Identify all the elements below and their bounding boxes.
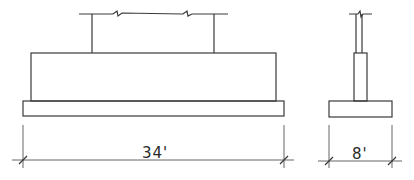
- section-width-label: 8': [352, 145, 368, 163]
- top-break-line: [79, 11, 228, 16]
- section-wall: [354, 53, 367, 101]
- section-footing: [329, 101, 392, 117]
- elevation-width-label: 34': [142, 144, 168, 162]
- wall-block: [31, 53, 276, 101]
- section-top-break-line: [349, 11, 372, 17]
- footing-slab: [23, 101, 284, 116]
